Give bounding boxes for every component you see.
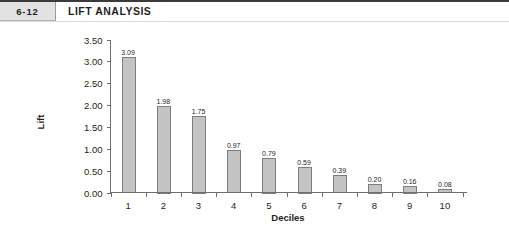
x-tick-label: 7 [337,200,342,211]
x-tick-label: 6 [301,200,306,211]
bar-value-label: 0.16 [403,178,417,185]
plot-bars: 3.091.981.750.970.790.590.390.200.160.08 [121,49,452,194]
x-tick-label: 8 [372,200,377,211]
x-axis-tick-labels: 12345678910 [125,200,450,211]
y-tick-label: 2.00 [84,100,103,111]
bar-value-label: 3.09 [121,49,135,56]
y-tick-label: 0.50 [84,166,103,177]
y-tick-label: 3.50 [84,35,103,46]
bar-value-label: 0.20 [368,176,382,183]
bar-value-label: 0.79 [262,150,276,157]
bar-value-label: 0.08 [438,181,452,188]
bar-value-label: 0.59 [297,159,311,166]
y-tick-label: 3.00 [84,56,103,67]
x-tick-label: 10 [440,200,451,211]
bar [158,107,171,194]
y-axis-ticks [107,41,111,194]
bar [334,176,347,193]
x-axis-title: Deciles [271,212,304,223]
bar-value-label: 1.75 [192,108,206,115]
page-header: 6-12 LIFT ANALYSIS [0,2,509,20]
bar-value-label: 0.39 [332,167,346,174]
bar [193,117,206,194]
chart-svg: 0.000.501.001.502.002.503.003.50 Lift 3.… [0,22,509,237]
lift-analysis-chart: 0.000.501.001.502.002.503.003.50 Lift 3.… [0,22,509,237]
x-axis-group: 12345678910 Deciles [111,193,467,224]
x-tick-label: 4 [231,200,236,211]
x-tick-label: 5 [266,200,271,211]
y-tick-label: 0.00 [84,188,103,199]
x-tick-label: 3 [196,200,201,211]
bar [299,168,312,194]
bar-value-label: 1.98 [156,98,170,105]
page-title: LIFT ANALYSIS [68,2,151,20]
chapter-number-badge: 6-12 [0,2,56,21]
x-tick-label: 9 [407,200,412,211]
bar [123,58,136,193]
y-axis-tick-labels: 0.000.501.001.502.002.503.003.50 [84,35,103,199]
x-tick-label: 1 [125,200,130,211]
x-tick-label: 2 [161,200,166,211]
y-tick-label: 1.50 [84,122,103,133]
y-tick-label: 1.00 [84,144,103,155]
y-axis-group: 0.000.501.001.502.002.503.003.50 Lift [35,35,111,199]
bar-value-label: 0.97 [227,142,241,149]
y-axis-title: Lift [35,114,46,130]
bar [228,151,241,193]
bar [263,159,276,194]
y-tick-label: 2.50 [84,78,103,89]
